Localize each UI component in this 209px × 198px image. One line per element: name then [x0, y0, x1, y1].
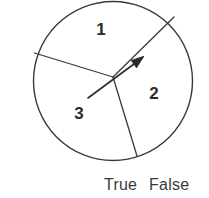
answer-option-true[interactable]: True: [104, 177, 137, 193]
spinner-diagram: 1 2 3: [0, 0, 209, 198]
answer-option-false[interactable]: False: [149, 177, 189, 193]
sector-label-1: 1: [96, 20, 105, 39]
spinner-question-figure: 1 2 3 True False: [0, 0, 209, 198]
answer-options-row: True False: [104, 172, 209, 198]
sector-label-2: 2: [149, 84, 158, 103]
sector-label-3: 3: [74, 104, 83, 123]
spinner-circle: [34, 2, 193, 161]
